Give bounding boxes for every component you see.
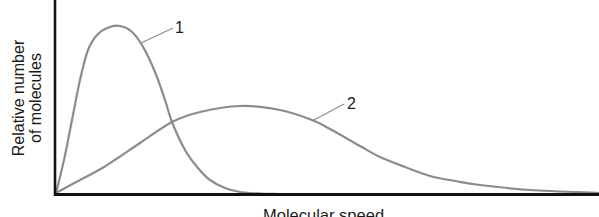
x-axis-label: Molecular speed [263,206,384,217]
curve-2-leader-line [312,104,344,121]
y-axis-label-line-2: of molecules [27,40,44,157]
curve-1 [56,26,280,194]
curve-1-leader-line [141,28,173,43]
y-axis-label-line-1: Relative number [10,40,27,157]
curve-2 [56,106,599,193]
chart-plot [0,0,599,217]
curve-2-label: 2 [347,96,356,112]
y-axis-label: Relative number of molecules [0,0,54,194]
curve-1-label: 1 [175,20,184,36]
